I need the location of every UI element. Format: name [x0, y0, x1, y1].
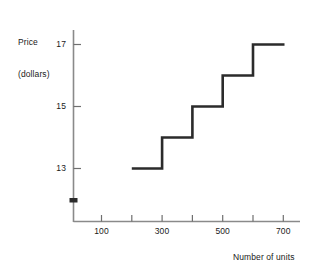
x-tick-label-100: 100 — [89, 226, 115, 236]
y-axis-title: Price (dollars) — [18, 16, 50, 100]
step-chart: Price (dollars) Number of units 17 15 13… — [0, 0, 325, 271]
y-axis-break-icon — [70, 198, 78, 203]
x-tick-label-300: 300 — [149, 226, 175, 236]
x-tick-label-700: 700 — [270, 226, 296, 236]
x-tick-label-500: 500 — [210, 226, 236, 236]
y-axis-title-line2: (dollars) — [18, 69, 50, 80]
x-axis-title: Number of units — [233, 252, 295, 263]
y-tick-label-13: 13 — [44, 163, 66, 173]
step-series-line — [132, 45, 285, 169]
x-tick-marks — [102, 215, 284, 222]
y-tick-label-17: 17 — [44, 39, 66, 49]
y-tick-marks — [74, 45, 82, 169]
y-tick-label-15: 15 — [44, 101, 66, 111]
